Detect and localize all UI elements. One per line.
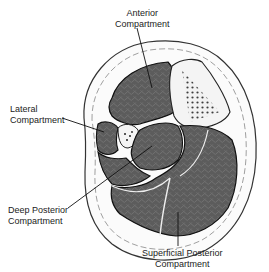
deep-posterior-compartment-label: Deep Posterior Compartment [8,205,68,226]
superficial-posterior-compartment-label: Superficial Posterior Compartment [142,248,223,269]
leg-cross-section-diagram [0,0,269,272]
lateral-compartment [97,122,119,155]
anterior-compartment-label: Anterior Compartment [115,8,170,29]
lateral-compartment-label: Lateral Compartment [10,104,65,125]
